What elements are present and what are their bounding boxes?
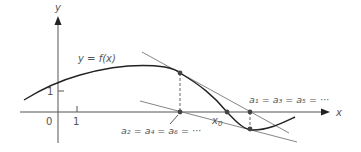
- odd-iterates-label: a₁ = a₃ = a₅ = ···: [249, 94, 329, 105]
- root-label: x0: [211, 115, 223, 128]
- x-axis-arrow-icon: [321, 109, 330, 116]
- point-curve-odd: [248, 127, 253, 132]
- root-label-subscript: 0: [218, 120, 223, 128]
- x-axis-label: x: [335, 107, 342, 118]
- point-odd-iterate: [248, 110, 253, 115]
- y-axis-label: y: [54, 2, 62, 13]
- point-even-iterate: [178, 110, 183, 115]
- newton-method-diagram: y 1 x 1 0 y = f(x) x0 a₁ = a₃ = a₅ = ···…: [0, 0, 361, 152]
- leader-line: [170, 115, 178, 124]
- even-iterates-label: a₂ = a₄ = a₆ = ···: [121, 125, 201, 136]
- origin-label: 0: [46, 116, 52, 127]
- x-axis: x 1 0: [20, 106, 342, 127]
- point-root: [225, 110, 230, 115]
- y-axis-arrow-icon: [55, 16, 62, 25]
- point-curve-even: [178, 71, 183, 76]
- curve-label: y = f(x): [77, 53, 116, 64]
- x-tick-label: 1: [73, 116, 79, 127]
